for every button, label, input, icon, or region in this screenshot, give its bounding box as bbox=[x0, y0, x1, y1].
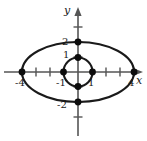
y-axis-arrowhead bbox=[74, 7, 81, 16]
point-x-1 bbox=[89, 69, 96, 76]
tick-label-pos1-x: 1 bbox=[88, 77, 94, 88]
x-axis-label: x bbox=[136, 74, 143, 87]
point-y-2 bbox=[75, 39, 82, 46]
point-x--1 bbox=[60, 69, 67, 76]
point-y-1 bbox=[75, 54, 82, 61]
tick-label-pos4: 4 bbox=[128, 77, 134, 88]
tick-label-pos1-y: 1 bbox=[63, 49, 69, 60]
tick-label-neg4: -4 bbox=[15, 77, 25, 88]
point-x--4 bbox=[19, 69, 26, 76]
tick-label-neg2-y: -2 bbox=[57, 99, 67, 110]
tick-label-neg1-x: -1 bbox=[56, 77, 66, 88]
coordinate-plot: x y -4 4 2 1 -2 -1 1 bbox=[0, 0, 147, 141]
point-y--1 bbox=[75, 83, 82, 90]
graph-figure: x y -4 4 2 1 -2 -1 1 bbox=[0, 0, 147, 141]
point-y--2 bbox=[75, 99, 82, 106]
y-axis-label: y bbox=[63, 4, 71, 17]
tick-label-pos2-y: 2 bbox=[62, 36, 68, 47]
